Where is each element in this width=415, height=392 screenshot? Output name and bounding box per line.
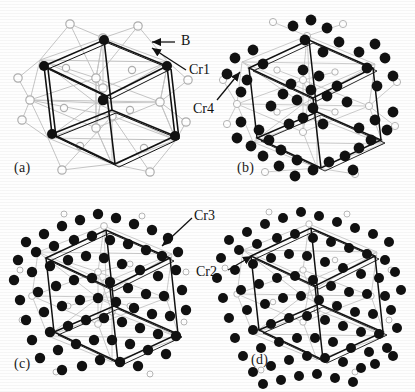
callout-label-cr1: Cr1 (189, 62, 210, 78)
panel-a-label: (a) (14, 160, 30, 176)
callout-label-b: B (181, 33, 190, 49)
crystal-structure-figure: (a) (0, 0, 415, 392)
cr3-filled-atoms-c (9, 209, 191, 375)
callout-label-cr3: Cr3 (194, 208, 215, 224)
callout-label-cr2: Cr2 (196, 264, 217, 280)
panel-d: (d) (207, 196, 414, 392)
panel-a-structure (0, 0, 207, 196)
panel-c: (c) (0, 196, 207, 392)
panel-b: (b) (207, 0, 414, 196)
panel-a: (a) (0, 0, 207, 196)
panel-c-label: (c) (14, 356, 30, 372)
panel-b-label: (b) (237, 160, 254, 176)
panel-d-label: (d) (251, 352, 268, 368)
cr2-filled-atoms-d (212, 207, 406, 389)
panel-c-structure (0, 196, 207, 392)
panel-d-structure (207, 196, 414, 392)
callout-label-cr4: Cr4 (193, 101, 214, 117)
